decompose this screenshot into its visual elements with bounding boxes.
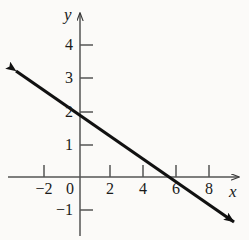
x-tick-label-4: 4 (139, 181, 147, 197)
y-tick-label-3: 3 (65, 70, 73, 86)
y-tick-label-2: 2 (65, 104, 73, 120)
plotted-line (16, 71, 234, 222)
x-tick-label-6: 6 (172, 181, 180, 197)
x-tick-label--2: −2 (35, 181, 52, 197)
graph-figure: −2 2 4 6 8 0 4 3 2 1 −1 y x (0, 0, 249, 240)
x-tick-label-2: 2 (106, 181, 114, 197)
x-tick-label-8: 8 (205, 181, 213, 197)
y-tick-label-1: 1 (65, 137, 73, 153)
x-axis-ticks (44, 165, 209, 177)
y-tick-label--1: −1 (56, 202, 73, 218)
x-axis-label: x (229, 183, 237, 200)
origin-label: 0 (66, 181, 74, 197)
y-axis-ticks (80, 45, 93, 210)
coordinate-plane-svg (0, 0, 249, 240)
y-tick-label-4: 4 (65, 37, 73, 53)
y-axis-label: y (64, 6, 72, 23)
